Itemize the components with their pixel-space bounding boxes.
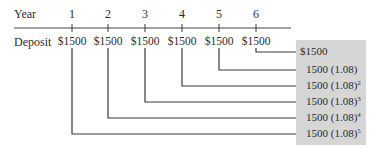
compounding-connector: [219, 48, 296, 70]
future-value-row: 1500 (1.08)5: [306, 128, 361, 139]
future-value-base: 1500 (1.08): [306, 79, 357, 91]
compounding-connector: [72, 48, 296, 134]
future-value-base: 1500 (1.08): [306, 95, 357, 107]
year-label: Year: [14, 8, 36, 20]
deposit-amount: $1500: [242, 36, 271, 48]
deposit-amount: $1500: [94, 36, 123, 48]
future-value-base: 1500 (1.08): [306, 111, 357, 123]
compounding-connector: [256, 48, 296, 52]
future-value-exponent: 5: [357, 127, 361, 135]
deposit-amount: $1500: [205, 36, 234, 48]
year-tick-label: 4: [179, 8, 185, 20]
year-tick-label: 5: [216, 8, 222, 20]
compounding-connector: [182, 48, 296, 86]
future-value-exponent: 3: [357, 95, 361, 103]
deposit-amount: $1500: [58, 36, 87, 48]
future-value-row: 1500 (1.08)4: [306, 112, 361, 123]
future-value-row: 1500 (1.08)3: [306, 96, 361, 107]
deposit-amount: $1500: [131, 36, 160, 48]
future-value-row: 1500 (1.08)2: [306, 80, 361, 91]
future-value-base: $1500: [300, 45, 328, 57]
future-value-exponent: 2: [357, 79, 361, 87]
future-value-base: 1500 (1.08): [306, 127, 357, 139]
future-value-row: $1500: [300, 46, 328, 57]
deposit-amount: $1500: [168, 36, 197, 48]
compounding-connector: [108, 48, 296, 118]
year-tick-label: 2: [105, 8, 111, 20]
future-value-row: 1500 (1.08): [306, 64, 357, 75]
year-tick-label: 1: [69, 8, 75, 20]
future-value-base: 1500 (1.08): [306, 63, 357, 75]
year-tick-label: 3: [142, 8, 148, 20]
compounding-connector: [145, 48, 296, 102]
future-value-exponent: 4: [357, 111, 361, 119]
deposit-label: Deposit: [14, 36, 51, 48]
year-tick-label: 6: [253, 8, 259, 20]
